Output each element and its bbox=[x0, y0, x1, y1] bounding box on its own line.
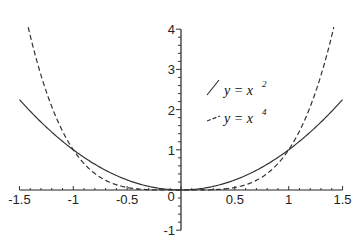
y-tick-label: 2 bbox=[168, 103, 175, 118]
x-tick-label: 1.5 bbox=[334, 192, 352, 207]
x-tick-label: -0.5 bbox=[116, 192, 138, 207]
x-tick-label: 1 bbox=[285, 192, 292, 207]
x-tick-label: 0 bbox=[167, 189, 174, 204]
y-tick-label: 1 bbox=[168, 143, 175, 158]
legend: y = x 2 y = x 4 bbox=[207, 79, 267, 126]
legend-label-x2: y = x bbox=[222, 83, 254, 98]
legend-solid-line-icon bbox=[207, 80, 219, 95]
legend-dashed-line-icon bbox=[207, 116, 220, 121]
x-tick-label: -1 bbox=[68, 192, 80, 207]
x-tick-label: 0.5 bbox=[226, 192, 244, 207]
y-tick-label: 3 bbox=[168, 62, 175, 77]
y-tick-label: 4 bbox=[168, 22, 175, 37]
axes: -1.5-1-0.500.511.5-11234 bbox=[8, 22, 351, 238]
legend-exp-x4: 4 bbox=[262, 107, 267, 117]
y-tick-label: -1 bbox=[163, 223, 175, 238]
x-tick-label: -1.5 bbox=[8, 192, 30, 207]
legend-label-x4: y = x bbox=[222, 111, 254, 126]
legend-exp-x2: 2 bbox=[262, 79, 267, 89]
plot-canvas: -1.5-1-0.500.511.5-11234 y = x 2 y = x 4 bbox=[0, 0, 364, 247]
